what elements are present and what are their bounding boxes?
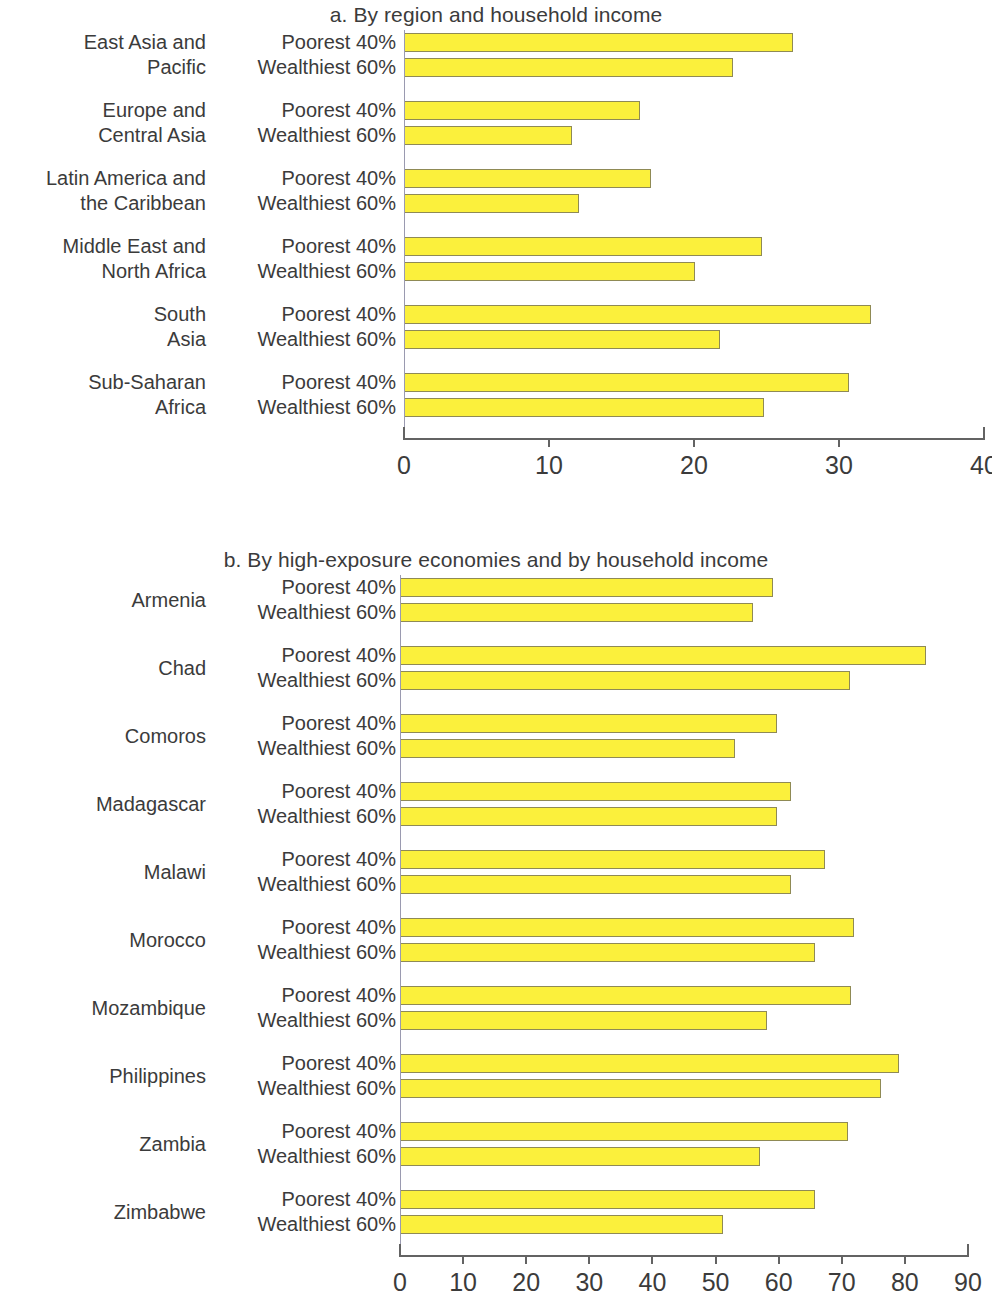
bar-row: Poorest 40% xyxy=(0,847,992,872)
bar-row: Poorest 40% xyxy=(0,643,992,668)
bar-group: SouthAsiaPoorest 40%Wealthiest 60% xyxy=(0,302,992,370)
series-label: Poorest 40% xyxy=(210,643,396,668)
series-label: Poorest 40% xyxy=(210,915,396,940)
x-axis-tick xyxy=(715,1255,717,1264)
bar-group: East Asia andPacificPoorest 40%Wealthies… xyxy=(0,30,992,98)
bar-row: Wealthiest 60% xyxy=(0,668,992,693)
x-axis-tick-label: 0 xyxy=(393,1267,407,1297)
bar-row: Poorest 40% xyxy=(0,30,992,55)
series-label: Wealthiest 60% xyxy=(210,1076,396,1101)
bar-group: ChadPoorest 40%Wealthiest 60% xyxy=(0,643,992,711)
x-axis-tick-label: 70 xyxy=(828,1267,856,1297)
x-axis-tick xyxy=(548,438,550,447)
bar-group: Europe andCentral AsiaPoorest 40%Wealthi… xyxy=(0,98,992,166)
bar xyxy=(404,373,849,392)
bar xyxy=(400,671,850,690)
x-axis-tick xyxy=(588,1255,590,1264)
series-label: Wealthiest 60% xyxy=(210,1144,396,1169)
x-axis-tick xyxy=(778,1255,780,1264)
bar-row: Poorest 40% xyxy=(0,915,992,940)
bar xyxy=(400,646,926,665)
x-axis-tick-label: 10 xyxy=(449,1267,477,1297)
series-label: Poorest 40% xyxy=(210,1119,396,1144)
plot-baseline xyxy=(404,30,405,438)
bar-group: PhilippinesPoorest 40%Wealthiest 60% xyxy=(0,1051,992,1119)
bar xyxy=(400,875,791,894)
bar-row: Poorest 40% xyxy=(0,1119,992,1144)
x-axis-tick xyxy=(841,1255,843,1264)
bar-row: Poorest 40% xyxy=(0,98,992,123)
series-label: Poorest 40% xyxy=(210,983,396,1008)
series-label: Poorest 40% xyxy=(210,234,396,259)
series-label: Wealthiest 60% xyxy=(210,1008,396,1033)
panel-b: b. By high-exposure economies and by hou… xyxy=(0,545,992,1301)
series-label: Wealthiest 60% xyxy=(210,872,396,897)
bar-group: MoroccoPoorest 40%Wealthiest 60% xyxy=(0,915,992,983)
x-axis-tick-label: 50 xyxy=(702,1267,730,1297)
bar-row: Wealthiest 60% xyxy=(0,872,992,897)
panel-b-plot: ArmeniaPoorest 40%Wealthiest 60%ChadPoor… xyxy=(0,575,992,1255)
x-axis-tick-label: 40 xyxy=(639,1267,667,1297)
bar-group: Latin America andthe CaribbeanPoorest 40… xyxy=(0,166,992,234)
bar-row: Poorest 40% xyxy=(0,711,992,736)
bar-row: Wealthiest 60% xyxy=(0,1008,992,1033)
bar xyxy=(404,330,720,349)
bar-row: Wealthiest 60% xyxy=(0,1144,992,1169)
bar-row: Poorest 40% xyxy=(0,983,992,1008)
bar-group: MadagascarPoorest 40%Wealthiest 60% xyxy=(0,779,992,847)
series-label: Wealthiest 60% xyxy=(210,940,396,965)
bar-row: Wealthiest 60% xyxy=(0,327,992,352)
bar-group: ArmeniaPoorest 40%Wealthiest 60% xyxy=(0,575,992,643)
bar xyxy=(404,33,793,52)
x-axis-tick xyxy=(525,1255,527,1264)
bar-row: Wealthiest 60% xyxy=(0,1212,992,1237)
bar xyxy=(400,1122,848,1141)
bar-row: Wealthiest 60% xyxy=(0,600,992,625)
bar xyxy=(404,262,695,281)
series-label: Poorest 40% xyxy=(210,98,396,123)
x-axis-tick-label: 30 xyxy=(575,1267,603,1297)
bar xyxy=(400,850,825,869)
bar xyxy=(400,714,777,733)
bar-row: Wealthiest 60% xyxy=(0,395,992,420)
bar-row: Wealthiest 60% xyxy=(0,123,992,148)
bar xyxy=(404,169,651,188)
panel-a-x-axis: 010203040 xyxy=(0,438,992,484)
bar-group: ComorosPoorest 40%Wealthiest 60% xyxy=(0,711,992,779)
x-axis-tick-label: 30 xyxy=(825,450,853,480)
bar xyxy=(400,986,851,1005)
x-axis-tick xyxy=(462,1255,464,1264)
series-label: Poorest 40% xyxy=(210,847,396,872)
x-axis-tick-label: 90 xyxy=(954,1267,982,1297)
panel-a-title: a. By region and household income xyxy=(0,0,992,30)
x-axis-tick xyxy=(693,438,695,447)
bar xyxy=(400,1147,760,1166)
bar-group: MalawiPoorest 40%Wealthiest 60% xyxy=(0,847,992,915)
panel-b-x-axis: 0102030405060708090 xyxy=(0,1255,992,1301)
plot-baseline xyxy=(400,575,401,1255)
bar-row: Poorest 40% xyxy=(0,370,992,395)
series-label: Poorest 40% xyxy=(210,711,396,736)
bar-row: Poorest 40% xyxy=(0,575,992,600)
bar xyxy=(400,918,854,937)
series-label: Poorest 40% xyxy=(210,370,396,395)
bar xyxy=(400,1215,723,1234)
series-label: Poorest 40% xyxy=(210,779,396,804)
x-axis-tick-label: 0 xyxy=(397,450,411,480)
bar xyxy=(400,1011,767,1030)
series-label: Wealthiest 60% xyxy=(210,736,396,761)
series-label: Wealthiest 60% xyxy=(210,259,396,284)
series-label: Wealthiest 60% xyxy=(210,55,396,80)
bar xyxy=(400,943,815,962)
panel-a: a. By region and household income East A… xyxy=(0,0,992,484)
series-label: Wealthiest 60% xyxy=(210,600,396,625)
bar-row: Poorest 40% xyxy=(0,1187,992,1212)
x-axis-tick-label: 60 xyxy=(765,1267,793,1297)
x-axis-tick-label: 80 xyxy=(891,1267,919,1297)
series-label: Wealthiest 60% xyxy=(210,191,396,216)
x-axis-tick xyxy=(967,1244,969,1257)
bar-group: MozambiquePoorest 40%Wealthiest 60% xyxy=(0,983,992,1051)
bar-group: Sub-SaharanAfricaPoorest 40%Wealthiest 6… xyxy=(0,370,992,438)
bar-group: ZimbabwePoorest 40%Wealthiest 60% xyxy=(0,1187,992,1255)
series-label: Wealthiest 60% xyxy=(210,668,396,693)
